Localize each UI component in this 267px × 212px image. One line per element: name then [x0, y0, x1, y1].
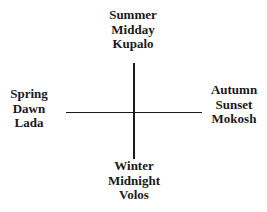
season-label: Summer [88, 8, 178, 23]
season-label: Autumn [189, 83, 267, 98]
deity-label: Kupalo [88, 37, 178, 52]
right-label-autumn: Autumn Sunset Mokosh [189, 83, 267, 127]
season-label: Winter [89, 159, 179, 174]
left-label-spring: Spring Dawn Lada [0, 87, 74, 131]
bottom-label-winter: Winter Midnight Volos [89, 159, 179, 203]
time-label: Midnight [89, 174, 179, 189]
horizontal-axis-line [66, 112, 202, 114]
top-label-summer: Summer Midday Kupalo [88, 8, 178, 52]
deity-label: Mokosh [189, 112, 267, 127]
time-label: Dawn [0, 102, 74, 117]
deity-label: Volos [89, 188, 179, 203]
deity-label: Lada [0, 116, 74, 131]
time-label: Midday [88, 23, 178, 38]
season-label: Spring [0, 87, 74, 102]
time-label: Sunset [189, 98, 267, 113]
